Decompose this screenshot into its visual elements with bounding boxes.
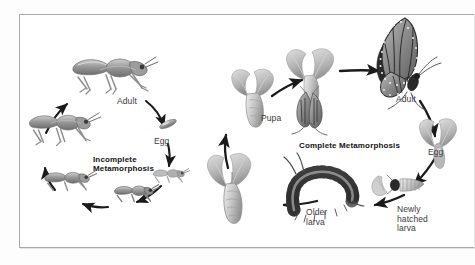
label-older-larva: Older larva bbox=[306, 208, 327, 227]
label-incomplete-adult: Adult bbox=[117, 97, 137, 107]
heading-complete-metamorphosis: Complete Metamorphosis bbox=[299, 141, 400, 151]
egg-on-leaf bbox=[419, 119, 456, 169]
arrow-pupa-to-emerging bbox=[272, 80, 302, 96]
nymph-second-instar bbox=[114, 185, 159, 202]
emerging-adult bbox=[287, 49, 334, 135]
heading-incomplete-metamorphosis-line2: Metamorphosis bbox=[93, 164, 154, 174]
nymph-fourth-instar bbox=[29, 113, 100, 146]
newly-hatched-larva bbox=[372, 175, 424, 196]
nymph-first-instar bbox=[153, 168, 190, 182]
adult-grasshopper bbox=[73, 57, 158, 94]
label-complete-pupa: Pupa bbox=[261, 114, 281, 124]
arrow-adult-to-egg bbox=[146, 101, 164, 126]
label-complete-adult: Adult bbox=[396, 95, 416, 105]
arrow-emerging-to-adult bbox=[340, 70, 379, 71]
label-newly-hatched-larva: Newly hatched larva bbox=[397, 205, 428, 234]
metamorphosis-figure: Adult Egg Incomplete Metamorphosis Pupa … bbox=[0, 0, 475, 265]
label-complete-egg: Egg bbox=[428, 148, 443, 158]
arrow-pupa-up bbox=[225, 135, 228, 168]
pupa-forming bbox=[207, 154, 250, 224]
arrow-nymph2-to-nymph3 bbox=[83, 204, 108, 207]
label-incomplete-egg: Egg bbox=[154, 137, 169, 147]
arrow-egg-to-nymph1 bbox=[168, 144, 170, 166]
